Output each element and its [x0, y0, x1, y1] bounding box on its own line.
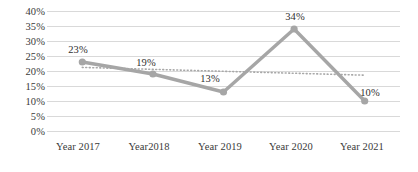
x-axis-tick-year-2021: Year 2021 — [326, 142, 398, 153]
data-label-2017: 23% — [60, 45, 96, 56]
data-point-year2018 — [149, 70, 156, 77]
x-axis-tick-year-2017: Year 2017 — [42, 142, 114, 153]
data-label-2019: 13% — [192, 74, 228, 85]
data-point-year-2019 — [220, 88, 227, 95]
data-point-markers — [79, 25, 369, 104]
data-label-2021: 10% — [352, 88, 388, 99]
x-axis-tick-year-2019: Year 2019 — [184, 142, 256, 153]
line-chart: 40% 35% 30% 25% 20% 15% 10% 5% 0% 23% 19… — [0, 0, 418, 172]
x-axis-tick-year-2018: Year2018 — [113, 142, 185, 153]
data-point-year-2017 — [79, 58, 86, 65]
data-point-year-2020 — [291, 25, 298, 32]
data-label-2020: 34% — [277, 12, 313, 23]
data-label-2018: 19% — [128, 58, 164, 69]
x-axis-tick-year-2020: Year 2020 — [255, 142, 327, 153]
